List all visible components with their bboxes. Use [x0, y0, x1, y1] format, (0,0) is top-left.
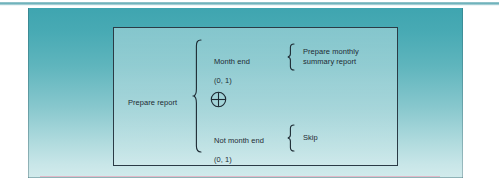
branch-condition-month-end: Month end (0, 1) [214, 47, 250, 95]
branch-action-skip: Skip [303, 133, 318, 143]
slide-image: Prepare report Month end (0, 1) Not mont… [0, 0, 499, 195]
lower-branch-brace-icon [287, 124, 297, 152]
branch-action-prepare-monthly-summary-report: Prepare monthly summary report [303, 47, 359, 66]
branch-cardinality-text: (0, 1) [214, 76, 250, 86]
top-divider-highlight [0, 5, 499, 6]
panel-right-edge [462, 8, 463, 178]
branch-condition-text: Month end [214, 57, 250, 67]
panel-bottom-edge [28, 177, 463, 178]
root-label: Prepare report [128, 98, 177, 108]
branch-condition-text: Not month end [214, 136, 264, 146]
upper-branch-brace-icon [287, 43, 297, 71]
main-brace-icon [193, 39, 205, 153]
branch-cardinality-text: (0, 1) [214, 155, 264, 165]
panel-left-edge [28, 8, 29, 178]
branch-condition-not-month-end: Not month end (0, 1) [214, 126, 264, 174]
